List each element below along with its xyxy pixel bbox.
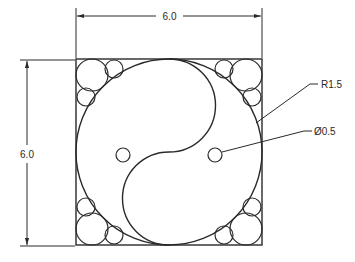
diameter-leader-line [222, 131, 312, 152]
corner-circle-large [76, 59, 108, 91]
technical-drawing: 6.0 6.0 R1.5 [0, 0, 355, 262]
corner-circles-bottom-left [76, 198, 123, 245]
corner-circle-small [215, 226, 233, 244]
width-label: 6.0 [163, 11, 177, 22]
height-dimension: 6.0 [20, 60, 75, 246]
corner-circle-small [77, 198, 95, 216]
corner-circle-large [76, 213, 108, 245]
radius-callout: R1.5 [256, 79, 343, 123]
corner-circle-small [77, 88, 95, 106]
corner-circle-small [215, 60, 233, 78]
height-label: 6.0 [20, 149, 34, 160]
eye-circle-left [116, 148, 130, 162]
corner-circles-top-right [215, 59, 262, 106]
width-dimension: 6.0 [76, 8, 262, 58]
corner-circles-top-left [76, 59, 123, 106]
corner-circle-large [230, 213, 262, 245]
diameter-callout: Ø0.5 [222, 126, 336, 152]
corner-circle-small [105, 60, 123, 78]
diameter-label: Ø0.5 [314, 126, 336, 137]
corner-circle-small [243, 88, 261, 106]
corner-circle-large [230, 59, 262, 91]
radius-leader-line [256, 84, 318, 123]
corner-circle-small [105, 226, 123, 244]
corner-circle-small [243, 198, 261, 216]
yin-yang-s-curve [123, 59, 216, 245]
radius-label: R1.5 [321, 79, 343, 90]
corner-circles-bottom-right [215, 198, 262, 245]
eye-circle-right [208, 148, 222, 162]
